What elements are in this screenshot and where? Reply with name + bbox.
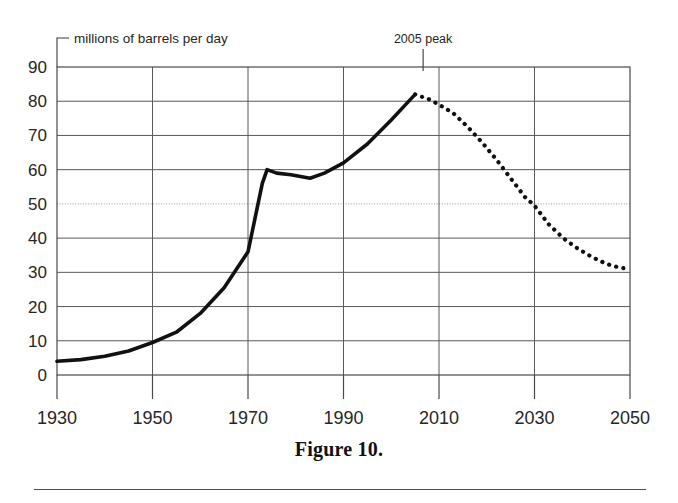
caption-block: Figure 10.: [0, 438, 678, 461]
y-axis-unit-label: millions of barrels per day: [57, 31, 228, 61]
y-tick-label: 80: [28, 92, 47, 111]
y-tick-label: 70: [28, 126, 47, 145]
x-tick-label: 2050: [610, 408, 650, 428]
y-tick-label: 30: [28, 263, 47, 282]
y-tick-label: 50: [28, 195, 47, 214]
y-tick-label: 0: [38, 366, 47, 385]
series-solid: [57, 94, 415, 361]
y-tick-label: 90: [28, 58, 47, 77]
y-tick-label: 60: [28, 161, 47, 180]
x-tick-label: 1990: [323, 408, 363, 428]
x-axis-tick-labels: 1930195019701990201020302050: [37, 408, 650, 428]
x-tick-label: 1930: [37, 408, 77, 428]
y-tick-label: 10: [28, 332, 47, 351]
series-dotted: [415, 94, 630, 269]
y-axis-tick-labels: 0102030405060708090: [28, 58, 47, 385]
annotation-layer: 2005 peak: [394, 32, 453, 71]
figure-10: 2005 peak 0102030405060708090 1930195019…: [0, 0, 678, 503]
y-tick-label: 20: [28, 298, 47, 317]
figure-caption: Figure 10.: [295, 438, 383, 460]
y-axis-unit-label: millions of barrels per day: [74, 31, 228, 46]
x-tick-label: 2030: [514, 408, 554, 428]
bottom-divider: [34, 489, 646, 490]
gridlines: [57, 67, 630, 375]
x-tick-label: 1970: [228, 408, 268, 428]
x-tick-label: 1950: [132, 408, 172, 428]
x-tick-label: 2010: [419, 408, 459, 428]
oil-production-chart: 2005 peak 0102030405060708090 1930195019…: [0, 0, 678, 440]
peak-annotation-label: 2005 peak: [394, 32, 453, 46]
y-tick-label: 40: [28, 229, 47, 248]
